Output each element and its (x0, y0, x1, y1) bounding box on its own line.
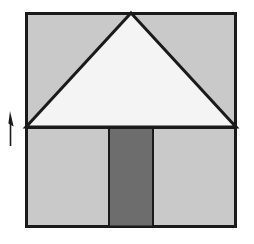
vertical-bar (109, 128, 153, 227)
geometric-figure-canvas (0, 0, 254, 244)
